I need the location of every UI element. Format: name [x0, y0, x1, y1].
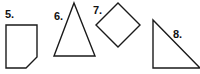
shape-rhombus	[96, 3, 140, 47]
shape-label-8: 8.	[173, 28, 182, 40]
shape-label-5: 5.	[5, 8, 14, 20]
worksheet-figure-panel: 5. 6. 7. 8.	[0, 0, 200, 74]
shapes-canvas: 5. 6. 7. 8.	[0, 0, 200, 74]
shape-pentagon	[6, 25, 37, 68]
shape-label-7: 7.	[93, 4, 102, 16]
shape-label-6: 6.	[54, 10, 63, 22]
